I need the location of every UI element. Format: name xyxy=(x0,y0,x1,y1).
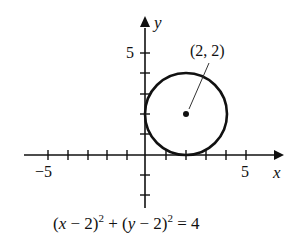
y-axis-label: y xyxy=(152,13,162,32)
y-axis-arrow-icon xyxy=(140,16,150,27)
center-point xyxy=(183,111,189,117)
graph: (2, 2) 5 −5 5 x y (x − 2)2 + (y − 2)2 = … xyxy=(0,0,297,249)
x-tick-label-5: 5 xyxy=(241,163,249,180)
equation: (x − 2)2 + (y − 2)2 = 4 xyxy=(53,212,200,233)
y-tick-label-5: 5 xyxy=(126,44,134,61)
x-axis-arrow-icon xyxy=(274,150,284,160)
x-axis-label: x xyxy=(272,163,281,182)
leader-line xyxy=(189,63,209,109)
x-tick-label-neg5: −5 xyxy=(35,163,52,180)
center-label: (2, 2) xyxy=(190,42,225,60)
